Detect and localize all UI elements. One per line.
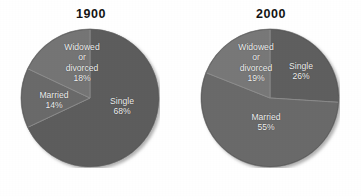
chart-title-1900: 1900: [6, 7, 176, 21]
chart-title-2000: 2000: [186, 7, 356, 21]
pie-slice-single-2000[interactable]: [270, 29, 339, 102]
figure-canvas: 1900 Widowed or divorced: [0, 0, 361, 196]
pie-graphic-2000: [200, 28, 340, 168]
pie-svg-1900: [20, 28, 160, 168]
pie-graphic-1900: [20, 28, 160, 168]
pie-chart-2000: 2000 Widowed or divorced: [186, 0, 356, 196]
pie-svg-2000: [200, 28, 340, 168]
pie-chart-1900: 1900 Widowed or divorced: [6, 0, 176, 196]
